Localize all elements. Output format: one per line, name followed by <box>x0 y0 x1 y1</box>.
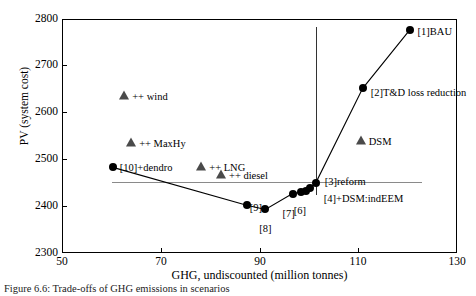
data-point-triangle <box>126 138 136 147</box>
y-tick-mark <box>62 112 67 113</box>
vertical-reference-line <box>316 27 317 195</box>
data-point-label: [1]BAU <box>418 26 452 37</box>
x-tick-label: 50 <box>56 255 68 267</box>
data-point-circle <box>261 205 269 213</box>
plot-frame <box>62 19 457 253</box>
data-point-label: ++ diesel <box>229 170 268 181</box>
data-point-label: [3]reform <box>325 176 366 187</box>
data-point-label: [6] <box>294 205 306 216</box>
x-tick-mark <box>358 248 359 253</box>
data-point-circle <box>109 163 117 171</box>
x-tick-label: 130 <box>448 255 465 267</box>
y-tick-mark <box>62 159 67 160</box>
data-point-label: [9] <box>250 202 262 213</box>
data-point-label: [4]+DSM:indEEM <box>324 193 403 204</box>
y-tick-label: 2300 <box>35 247 58 259</box>
y-tick-label: 2800 <box>35 13 58 25</box>
x-tick-mark <box>161 248 162 253</box>
data-point-label: ++ MaxHy <box>139 138 186 149</box>
data-point-label: DSM <box>369 136 392 147</box>
y-tick-mark <box>62 206 67 207</box>
horizontal-reference-line <box>112 182 422 183</box>
y-tick-label: 2600 <box>35 106 58 118</box>
data-point-circle <box>289 190 297 198</box>
data-point-circle <box>406 26 414 34</box>
y-tick-label: 2700 <box>35 59 58 71</box>
figure-caption: Figure 6.6: Trade-offs of GHG emissions … <box>4 283 474 295</box>
x-tick-label: 110 <box>350 255 367 267</box>
data-point-label: [8] <box>259 223 271 234</box>
data-point-circle <box>297 188 305 196</box>
data-point-triangle <box>356 135 366 144</box>
y-tick-label: 2400 <box>35 200 58 212</box>
data-point-label: [10]+dendro <box>120 162 173 173</box>
x-tick-label: 90 <box>254 255 266 267</box>
data-point-label: [7] <box>282 208 294 219</box>
data-point-circle <box>359 84 367 92</box>
data-point-triangle <box>196 161 206 170</box>
y-tick-mark <box>62 65 67 66</box>
data-point-triangle <box>216 169 226 178</box>
y-axis-title: PV (system cost) <box>18 46 30 166</box>
data-point-label: ++ wind <box>132 91 167 102</box>
data-point-label: [2]T&D loss reduction <box>371 87 467 98</box>
x-tick-label: 70 <box>155 255 167 267</box>
x-axis-title: GHG, undiscounted (million tonnes) <box>62 268 457 283</box>
figure-scatter-chart: 2800 2700 2600 2500 2400 2300 50 70 90 1… <box>0 0 476 296</box>
data-point-triangle <box>119 90 129 99</box>
y-tick-label: 2500 <box>35 153 58 165</box>
x-tick-mark <box>260 248 261 253</box>
